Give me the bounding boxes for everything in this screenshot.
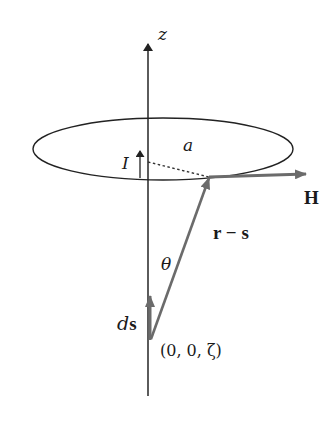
origin-point-label: (0, 0, ζ) <box>160 343 222 359</box>
element-label-d: d <box>117 312 129 334</box>
current-loop <box>33 118 293 180</box>
element-label: ds <box>117 314 137 333</box>
element-label-s: s <box>129 313 136 334</box>
angle-label: θ <box>161 256 171 273</box>
field-vector-h <box>209 174 306 177</box>
separation-label: r − s <box>213 223 249 242</box>
current-loop-diagram: z I a H r − s θ ds (0, 0, ζ) <box>0 0 328 423</box>
z-axis-label: z <box>158 26 167 43</box>
radius-label: a <box>183 137 193 154</box>
separation-vector <box>151 178 209 339</box>
current-label: I <box>122 155 129 172</box>
field-label: H <box>304 188 319 207</box>
radius-line <box>148 162 209 177</box>
